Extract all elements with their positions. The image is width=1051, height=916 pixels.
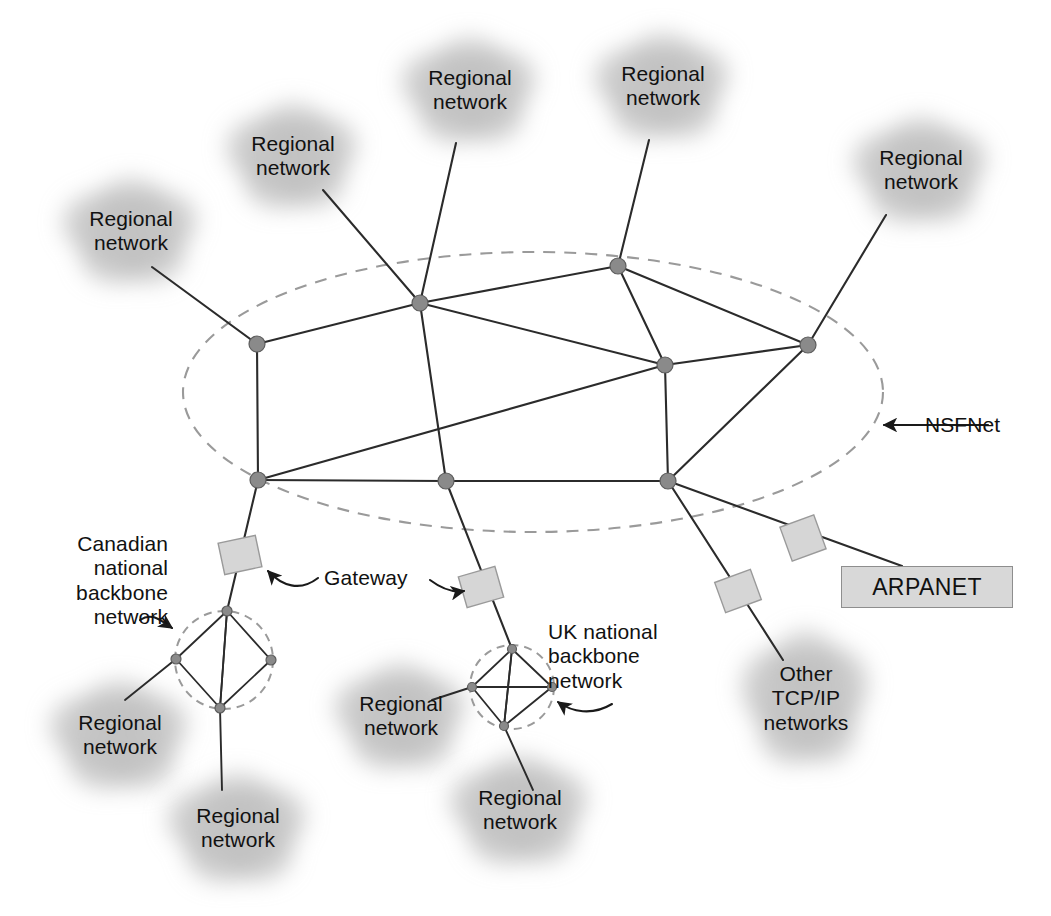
gateway-box-gw-canada: [218, 535, 262, 574]
nsfnet-node-n-south-mid: [438, 473, 454, 489]
uk-node-uk-left: [468, 683, 477, 692]
uk-link-uk-right-uk-bottom: [504, 687, 552, 726]
uk-node-uk-top: [508, 645, 517, 654]
nsfnet-boundary: [183, 252, 883, 532]
uk-backbone-label: UK national backbone network: [548, 620, 698, 693]
cloud-label-regional-top-right: Regional network: [563, 62, 763, 111]
nsfnet-link-n-north-mid-n-south-mid: [420, 303, 446, 481]
uk-link-uk-top-uk-left: [472, 649, 512, 687]
cloud-label-regional-top-mid-left: Regional network: [193, 132, 393, 181]
nsfnet-link-n-west-n-north-mid: [257, 303, 420, 344]
nsfnet-link-n-southwest-n-south-mid: [258, 480, 446, 481]
regional-link-regional-far-right: [808, 215, 886, 345]
gateway-boxes-layer: [218, 515, 826, 613]
regional-link-regional-top-left: [152, 267, 257, 344]
cloud-label-regional-far-right: Regional network: [821, 146, 1021, 195]
nsfnet-node-n-southeast: [660, 473, 676, 489]
network-nodes-layer: [171, 258, 816, 731]
gateway-arrow-left: [268, 571, 318, 586]
nsfnet-link-n-north-east-n-center-east: [618, 266, 665, 365]
gateway-box-gw-other: [715, 569, 762, 612]
regional-link-regional-top-right: [618, 140, 649, 266]
nsfnet-link-n-north-east-n-east: [618, 266, 808, 345]
canadian-node-ca-right: [266, 655, 276, 665]
nsfnet-link-n-center-east-n-southwest: [258, 365, 665, 480]
cloud-label-regional-bottom-left: Regional network: [20, 711, 220, 760]
nsfnet-node-n-southwest: [250, 472, 266, 488]
canadian-node-ca-top: [222, 606, 232, 616]
canadian-backbone-label: Canadian national backbone network: [58, 532, 168, 629]
nsfnet-node-n-east: [800, 337, 816, 353]
nsfnet-node-n-north-mid: [412, 295, 428, 311]
nsfnet-link-n-center-east-n-east: [665, 345, 808, 365]
canadian-link-ca-right-ca-bottom: [220, 660, 271, 708]
cloud-label-regional-bottom-mid: Regional network: [138, 804, 338, 853]
nsfnet-link-n-north-mid-n-north-east: [420, 266, 618, 303]
uk-callout-arrow: [558, 702, 612, 711]
gateway-box-gw-arpanet: [780, 515, 826, 561]
cloud-label-regional-top-left: Regional network: [31, 207, 231, 256]
arpanet-box: ARPANET: [841, 566, 1013, 608]
nsfnet-node-n-west: [249, 336, 265, 352]
cloud-label-regional-top-center: Regional network: [370, 66, 570, 115]
nsfnet-node-n-north-east: [610, 258, 626, 274]
diagram-vector-layer: [0, 0, 1051, 916]
gateway-callout-label: Gateway: [324, 566, 408, 590]
nsfnet-link-n-east-n-southeast: [668, 345, 808, 481]
canadian-node-ca-left: [171, 654, 181, 664]
regional-link-regional-top-mid-left: [323, 190, 420, 303]
cloud-label-regional-uk-left: Regional network: [301, 692, 501, 741]
nsfnet-callout-label: NSFNet: [925, 413, 1000, 437]
gateway-arrow-right: [430, 580, 464, 592]
gateway-box-gw-uk: [458, 566, 503, 607]
uk-link-uk-top-uk-right: [512, 649, 552, 687]
diagram-canvas: Regional networkRegional networkRegional…: [0, 0, 1051, 916]
nsfnet-link-n-west-n-southwest: [257, 344, 258, 480]
canadian-link-ca-top-ca-left: [176, 611, 227, 659]
arpanet-link: [668, 481, 902, 566]
uk-uplink: [446, 481, 512, 649]
canadian-internal-trunk: [220, 611, 227, 708]
cloud-label-regional-uk-bottom: Regional network: [420, 786, 620, 835]
nsfnet-link-n-north-mid-n-center-east: [420, 303, 665, 365]
nsfnet-node-n-center-east: [657, 357, 673, 373]
cloud-label-other-tcpip-cloud: Other TCP/IP networks: [706, 662, 906, 735]
nsfnet-link-n-center-east-n-southeast: [665, 365, 668, 481]
regional-link-regional-top-center: [420, 143, 456, 303]
